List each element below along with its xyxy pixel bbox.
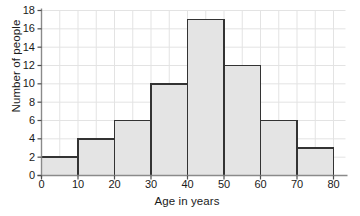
bars [42, 20, 334, 176]
x-tick-label: 20 [100, 179, 130, 190]
y-tick-label: 10 [13, 78, 35, 89]
histogram-bar [297, 148, 334, 176]
y-tick-label: 2 [13, 152, 35, 163]
histogram-bar [115, 121, 152, 176]
histogram-bar [151, 84, 188, 176]
y-tick-label: 18 [13, 5, 35, 16]
x-tick-label: 40 [173, 179, 203, 190]
histogram-bar [224, 66, 261, 176]
histogram-chart: Number of people Age in years 0246810121… [0, 0, 360, 216]
y-tick-label: 8 [13, 97, 35, 108]
x-tick-label: 50 [209, 179, 239, 190]
x-axis-title: Age in years [41, 195, 333, 207]
y-tick-label: 4 [13, 133, 35, 144]
y-tick-label: 12 [13, 60, 35, 71]
x-tick-label: 0 [27, 179, 57, 190]
histogram-bar [78, 139, 115, 176]
x-tick-label: 80 [319, 179, 349, 190]
histogram-bar [261, 121, 298, 176]
y-tick-label: 6 [13, 115, 35, 126]
x-tick-label: 70 [282, 179, 312, 190]
histogram-bar [42, 157, 79, 175]
y-tick-label: 16 [13, 23, 35, 34]
x-tick-label: 60 [246, 179, 276, 190]
x-tick-label: 10 [63, 179, 93, 190]
histogram-bar [188, 20, 225, 176]
y-tick-label: 14 [13, 42, 35, 53]
x-tick-label: 30 [136, 179, 166, 190]
